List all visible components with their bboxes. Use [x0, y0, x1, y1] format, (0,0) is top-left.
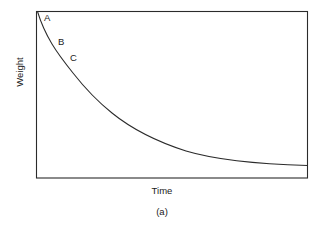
curve-annotation-c: C — [70, 53, 77, 63]
figure-container: Weight Time A B C (a) — [0, 0, 324, 228]
weight-decay-curve — [38, 12, 308, 166]
y-axis-label: Weight — [15, 63, 25, 87]
figure-caption: (a) — [0, 207, 324, 217]
curve-annotation-a: A — [44, 13, 50, 23]
x-axis-label: Time — [0, 186, 324, 196]
plot-frame — [37, 12, 308, 179]
curve-annotation-b: B — [58, 37, 64, 47]
